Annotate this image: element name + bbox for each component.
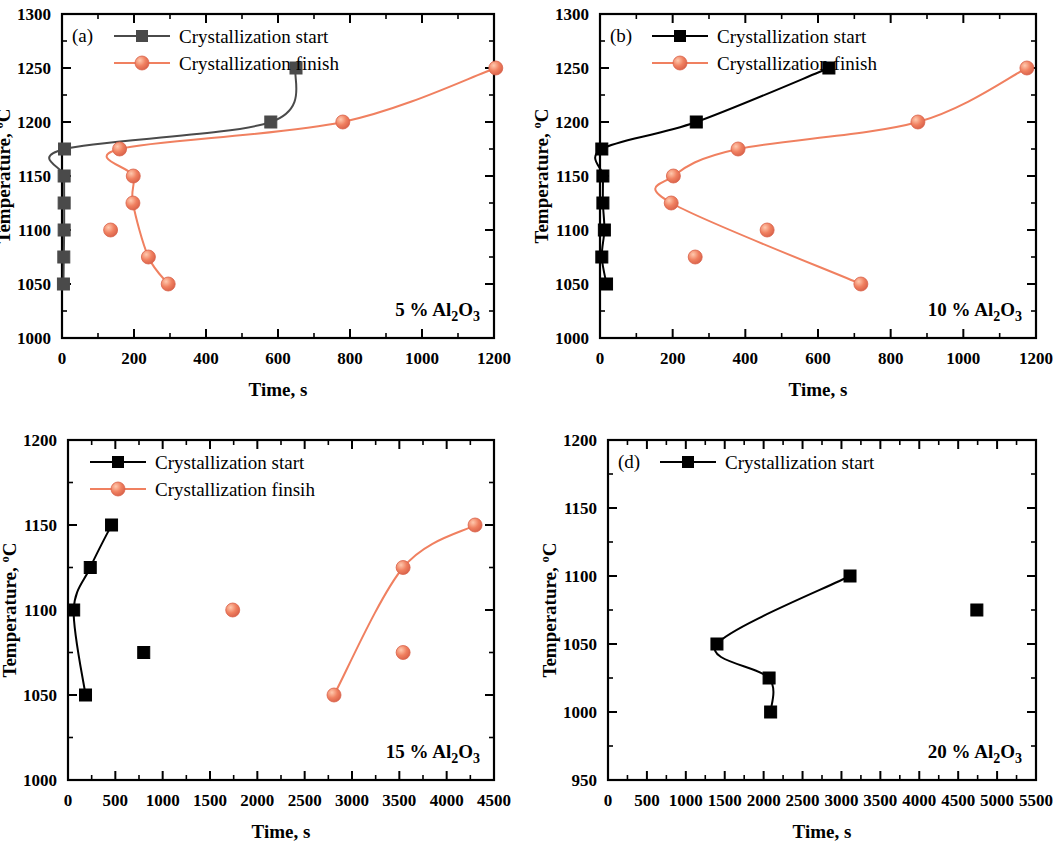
y-tick-label: 1100 — [564, 567, 597, 586]
x-tick-label: 2500 — [786, 791, 820, 810]
y-tick-label: 1150 — [18, 167, 51, 186]
y-tick-label: 1150 — [564, 499, 597, 518]
y-tick-label: 1200 — [17, 113, 51, 132]
legend-marker — [112, 456, 124, 468]
series-curve — [715, 576, 850, 712]
data-point-marker — [141, 250, 155, 264]
x-tick-label: 400 — [733, 349, 759, 368]
data-point-marker — [58, 170, 70, 182]
x-tick-label: 2500 — [288, 791, 322, 810]
data-point-marker — [57, 278, 69, 290]
series-curve — [595, 68, 829, 284]
y-tick-label: 1300 — [555, 5, 589, 24]
legend-marker — [135, 56, 149, 70]
composition-annotation: 20 % Al2O3 — [928, 741, 1022, 766]
y-tick-label: 1050 — [555, 275, 589, 294]
y-tick-label: 1000 — [563, 703, 597, 722]
data-point-marker — [336, 115, 350, 129]
x-tick-label: 200 — [121, 349, 147, 368]
x-tick-label: 4000 — [430, 791, 464, 810]
x-tick-label: 1000 — [946, 349, 980, 368]
data-point-marker — [844, 570, 856, 582]
x-tick-label: 2000 — [747, 791, 781, 810]
y-tick-label: 1000 — [17, 329, 51, 348]
data-point-marker — [971, 604, 983, 616]
legend-label: Crystallization finish — [179, 53, 339, 74]
series-curve — [107, 68, 496, 284]
data-point-marker — [598, 224, 610, 236]
x-tick-label: 800 — [337, 349, 363, 368]
data-point-marker — [80, 689, 92, 701]
data-point-marker — [760, 223, 774, 237]
x-axis-label: Time, s — [793, 821, 852, 842]
legend-label: Crystallization start — [725, 452, 875, 473]
data-point-marker — [854, 277, 868, 291]
x-tick-label: 0 — [604, 791, 613, 810]
data-point-marker — [396, 646, 410, 660]
data-point-marker — [731, 142, 745, 156]
x-tick-label: 3000 — [824, 791, 858, 810]
y-tick-label: 1300 — [17, 5, 51, 24]
data-point-marker — [84, 562, 96, 574]
x-tick-label: 500 — [103, 791, 129, 810]
data-point-marker — [688, 250, 702, 264]
x-tick-label: 500 — [634, 791, 660, 810]
x-tick-label: 1000 — [146, 791, 180, 810]
panel-tag: (a) — [72, 25, 93, 47]
data-point-marker — [765, 706, 777, 718]
data-point-marker — [596, 143, 608, 155]
data-point-marker — [104, 223, 118, 237]
chart-panel-b: 1000105011001150120012501300020040060080… — [522, 0, 1050, 424]
data-point-marker — [265, 116, 277, 128]
data-point-marker — [468, 518, 482, 532]
y-tick-label: 1050 — [23, 686, 57, 705]
chart-panel-d: 9501000105011001150120005001000150020002… — [530, 424, 1050, 844]
data-point-marker — [106, 519, 118, 531]
x-tick-label: 0 — [596, 349, 605, 368]
series-curve — [334, 525, 475, 695]
legend-marker — [111, 482, 125, 496]
y-tick-label: 1000 — [23, 771, 57, 790]
legend-marker — [682, 456, 694, 468]
x-axis-label: Time, s — [249, 379, 308, 400]
y-tick-label: 1200 — [555, 113, 589, 132]
data-point-marker — [226, 603, 240, 617]
y-tick-label: 1200 — [563, 431, 597, 450]
legend-marker — [674, 30, 686, 42]
x-tick-label: 5500 — [1019, 791, 1053, 810]
data-point-marker — [327, 688, 341, 702]
x-tick-label: 0 — [64, 791, 73, 810]
x-tick-label: 3500 — [863, 791, 897, 810]
x-axis-label: Time, s — [789, 379, 848, 400]
x-tick-label: 1200 — [477, 349, 511, 368]
x-tick-label: 200 — [660, 349, 686, 368]
data-point-marker — [113, 142, 127, 156]
x-tick-label: 1500 — [193, 791, 227, 810]
x-tick-label: 1200 — [1019, 349, 1053, 368]
data-point-marker — [711, 638, 723, 650]
x-tick-label: 1000 — [405, 349, 439, 368]
legend-marker — [673, 56, 687, 70]
x-tick-label: 1000 — [669, 791, 703, 810]
composition-annotation: 15 % Al2O3 — [386, 741, 480, 766]
legend-label: Crystallization start — [717, 26, 867, 47]
panel-tag: (b) — [610, 25, 632, 47]
data-point-marker — [161, 277, 175, 291]
data-point-marker — [489, 61, 503, 75]
x-tick-label: 0 — [58, 349, 67, 368]
y-axis-label: Temperature, ºC — [0, 108, 14, 243]
x-tick-label: 5000 — [980, 791, 1014, 810]
data-point-marker — [138, 647, 150, 659]
y-axis-label: Temperature, ºC — [0, 542, 20, 677]
x-tick-label: 1500 — [708, 791, 742, 810]
data-point-marker — [59, 143, 71, 155]
x-tick-label: 600 — [805, 349, 831, 368]
y-tick-label: 1250 — [17, 59, 51, 78]
x-tick-label: 3000 — [335, 791, 369, 810]
data-point-marker — [126, 169, 140, 183]
data-point-marker — [911, 115, 925, 129]
chart-panel-c: 1000105011001150120005001000150020002500… — [0, 424, 508, 844]
legend-label: Crystallization start — [155, 452, 305, 473]
y-tick-label: 1100 — [24, 601, 57, 620]
data-point-marker — [58, 224, 70, 236]
